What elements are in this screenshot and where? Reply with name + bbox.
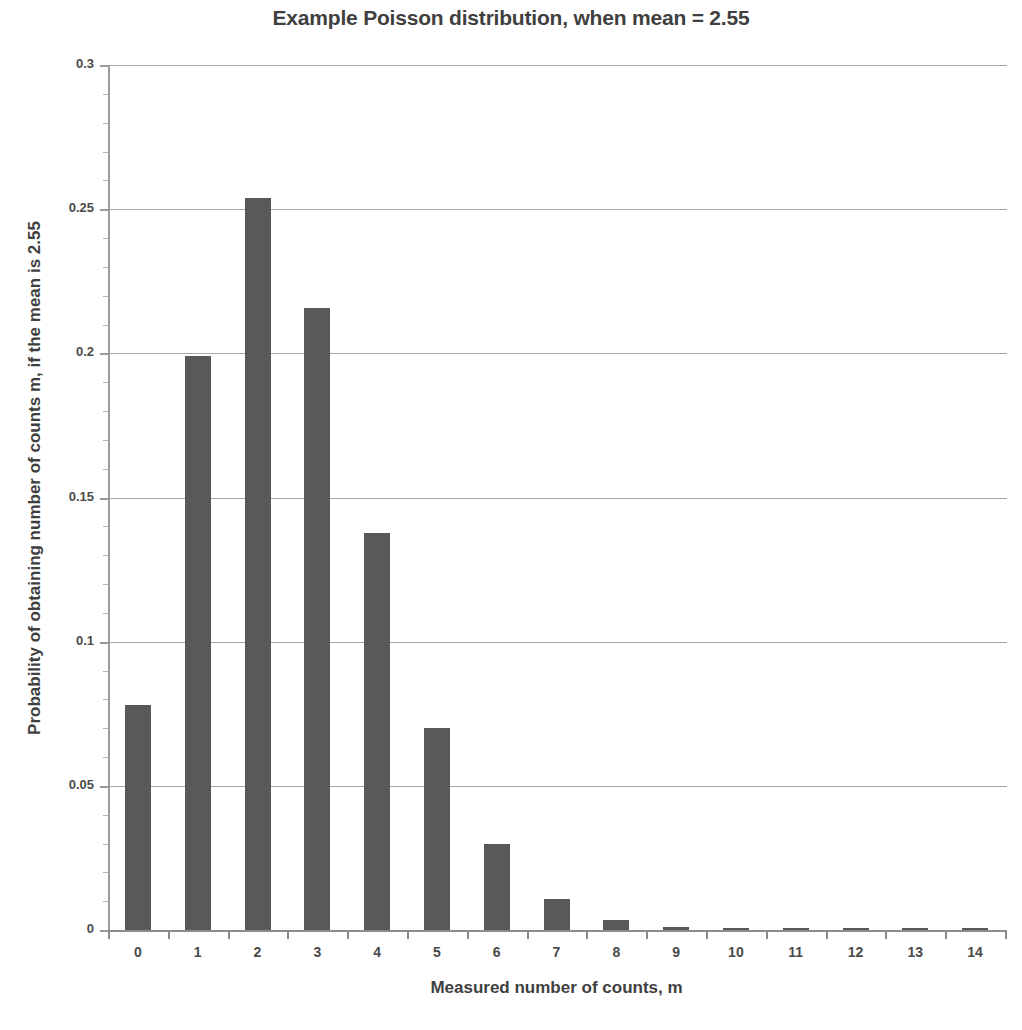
y-minor-tick [103,901,109,902]
x-tick-mark [885,930,887,939]
x-tick-mark [1005,930,1007,939]
y-minor-tick [103,844,109,845]
y-minor-tick [103,152,109,153]
x-tick-label: 2 [228,944,288,960]
x-tick-mark [407,930,409,939]
bar-8 [603,920,629,930]
y-minor-tick [103,757,109,758]
x-tick-label: 14 [945,944,1005,960]
x-tick-label: 1 [168,944,228,960]
x-tick-label: 5 [407,944,467,960]
x-tick-mark [766,930,768,939]
y-minor-tick [103,613,109,614]
x-tick-mark [586,930,588,939]
x-axis-line [108,930,1007,932]
y-tick-label: 0.15 [38,489,94,504]
bar-2 [245,198,271,930]
x-tick-label: 10 [706,944,766,960]
y-minor-tick [103,469,109,470]
y-minor-tick [103,238,109,239]
y-axis-title: Probability of obtaining number of count… [18,28,52,928]
y-minor-tick [103,180,109,181]
y-minor-tick [103,267,109,268]
y-tick-mark [100,209,109,211]
bar-5 [424,728,450,930]
x-tick-mark [826,930,828,939]
y-tick-label: 0.05 [38,777,94,792]
y-minor-tick [103,325,109,326]
x-tick-mark [527,930,529,939]
y-tick-label: 0.3 [38,56,94,71]
bar-1 [185,356,211,930]
y-minor-tick [103,296,109,297]
x-tick-mark [646,930,648,939]
y-tick-label: 0.2 [38,344,94,359]
y-minor-tick [103,555,109,556]
x-axis-title: Measured number of counts, m [108,978,1005,998]
x-tick-mark [347,930,349,939]
y-tick-mark [100,642,109,644]
x-tick-label: 3 [287,944,347,960]
x-tick-label: 11 [766,944,826,960]
bar-7 [544,899,570,930]
y-minor-tick [103,728,109,729]
x-tick-mark [706,930,708,939]
y-minor-tick [103,440,109,441]
bar-3 [304,308,330,931]
x-tick-mark [228,930,230,939]
y-tick-label: 0.1 [38,633,94,648]
y-minor-tick [103,382,109,383]
x-tick-mark [945,930,947,939]
y-minor-tick [103,411,109,412]
x-tick-label: 6 [467,944,527,960]
x-tick-mark [287,930,289,939]
x-tick-mark [168,930,170,939]
x-tick-label: 9 [646,944,706,960]
y-tick-mark [100,353,109,355]
y-minor-tick [103,671,109,672]
bar-6 [484,844,510,930]
bar-4 [364,533,390,930]
y-minor-tick [103,94,109,95]
bar-0 [125,705,151,930]
x-tick-mark [108,930,110,939]
x-tick-label: 13 [885,944,945,960]
y-tick-label: 0.25 [38,200,94,215]
bars-layer [108,65,1005,930]
y-minor-tick [103,123,109,124]
y-minor-tick [103,815,109,816]
y-tick-mark [100,498,109,500]
y-minor-tick [103,584,109,585]
x-tick-label: 4 [347,944,407,960]
x-tick-label: 7 [527,944,587,960]
y-tick-mark [100,65,109,67]
x-tick-mark [467,930,469,939]
x-tick-label: 12 [826,944,886,960]
y-minor-tick [103,526,109,527]
chart-title: Example Poisson distribution, when mean … [0,6,1022,30]
y-tick-mark [100,786,109,788]
y-minor-tick [103,699,109,700]
y-tick-label: 0 [38,921,94,936]
x-tick-label: 8 [586,944,646,960]
y-minor-tick [103,872,109,873]
x-tick-label: 0 [108,944,168,960]
